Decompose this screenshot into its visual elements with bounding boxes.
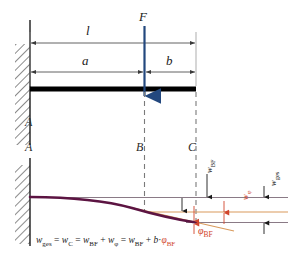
fixed-support-wall-bottom [15, 158, 30, 246]
node-label-A-bottom: A [25, 141, 32, 153]
dimension-label-l: l [86, 24, 90, 37]
dimension-label-b: b [166, 54, 173, 67]
measure-wbf [182, 174, 207, 211]
node-label-C: C [188, 141, 196, 153]
figure-canvas [0, 0, 294, 255]
vertical-label-wbf: wBF [205, 159, 216, 173]
dimension-label-a: a [82, 54, 89, 67]
node-label-A-top: A [25, 116, 32, 128]
cantilever-deflection-figure: l a b F A A B C wBF wφ wges φBF wges = w… [0, 0, 294, 255]
beam-element [30, 87, 196, 92]
vertical-label-wges: wges [269, 172, 280, 186]
force-label-F: F [139, 10, 147, 23]
vertical-label-wphi: wφ [241, 191, 252, 200]
node-label-B: B [136, 141, 143, 153]
angle-label-phi-bf: φBF [198, 226, 213, 239]
deflection-formula: wges = wC = wBF + wφ = wBF + b·φBF [36, 236, 175, 248]
deflection-curve [30, 197, 196, 223]
